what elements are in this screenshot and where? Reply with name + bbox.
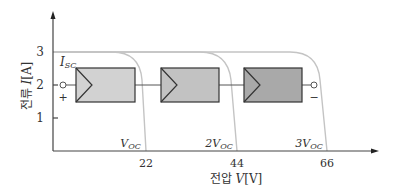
iv-diagram: 3 2 1 전류 I[A] 22 44 66 전압 V[V] ISC VOC 2… bbox=[0, 0, 402, 193]
positive-terminal-icon bbox=[60, 82, 66, 88]
pv-module-3 bbox=[244, 68, 302, 102]
3voc-label: 3VOC bbox=[295, 137, 323, 151]
pv-module-2 bbox=[161, 68, 219, 102]
y-tick-label-2: 2 bbox=[36, 78, 44, 92]
y-axis-label: 전류 I[A] bbox=[20, 62, 34, 111]
minus-sign: − bbox=[309, 91, 318, 104]
x-axis-arrow-icon bbox=[371, 149, 379, 154]
y-tick-label-1: 1 bbox=[36, 111, 44, 125]
x-tick-label-22: 22 bbox=[139, 157, 153, 170]
y-tick-label-3: 3 bbox=[36, 45, 44, 59]
isc-label: ISC bbox=[59, 55, 76, 70]
pv-module-1 bbox=[76, 68, 135, 102]
x-tick-label-66: 66 bbox=[320, 157, 334, 170]
2voc-label: 2VOC bbox=[204, 137, 233, 151]
voc-label: VOC bbox=[120, 137, 141, 151]
negative-terminal-icon bbox=[311, 82, 317, 88]
x-axis-label: 전압 V[V] bbox=[210, 172, 263, 186]
y-axis-arrow-icon bbox=[51, 11, 56, 19]
x-tick-label-44: 44 bbox=[230, 157, 244, 170]
plus-sign: + bbox=[58, 91, 67, 104]
